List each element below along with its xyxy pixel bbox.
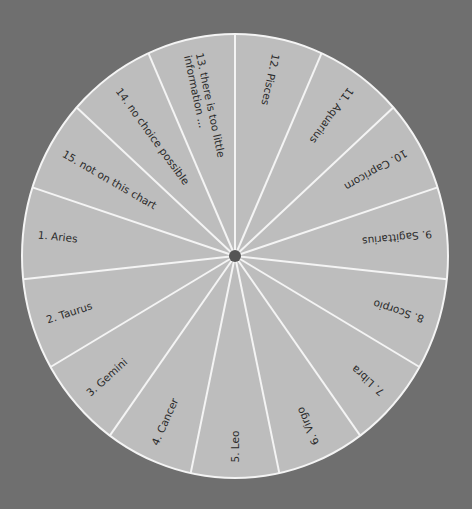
- zodiac-choice-wheel: 1. Aries2. Taurus3. Gemini4. Cancer5. Le…: [0, 0, 472, 509]
- center-hub: [229, 250, 241, 262]
- segment-5[interactable]: 5. Leo: [229, 431, 241, 463]
- segment-label: 5. Leo: [229, 431, 241, 463]
- wheel-diagram: 1. Aries2. Taurus3. Gemini4. Cancer5. Le…: [0, 0, 472, 509]
